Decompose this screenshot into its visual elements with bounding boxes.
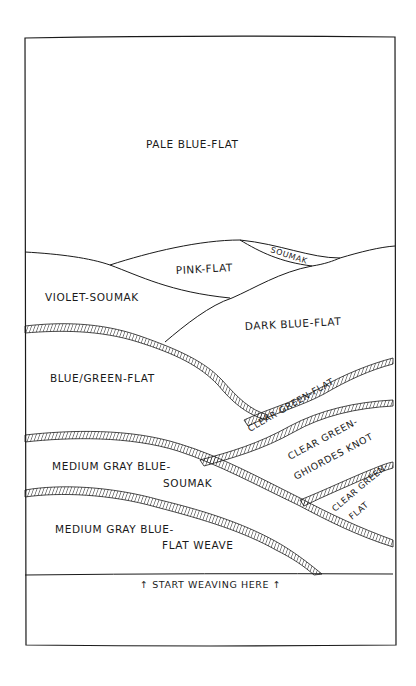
label-blue-green-flat: Blue/Green-Flat — [50, 372, 155, 384]
label-soumak-small: Soumak — [269, 245, 308, 265]
pink-top-boundary — [110, 240, 395, 265]
label-medium-gray-soumak-line1: Medium Gray Blue- — [52, 460, 171, 472]
label-violet-soumak: Violet-Soumak — [45, 291, 139, 303]
label-medium-gray-flat-line1: Medium Gray Blue- — [55, 523, 174, 535]
dark-blue-boundary — [165, 266, 312, 342]
outer-frame — [25, 36, 396, 646]
start-band-divider — [25, 574, 393, 575]
label-clear-green-flat: Clear Green-Flat — [246, 376, 336, 434]
start-weaving-note: ↑ Start Weaving Here ↑ — [140, 579, 281, 590]
weaving-diagram: Pale Blue-Flat Pink-Flat Soumak Violet-S… — [0, 0, 416, 686]
label-pale-blue-flat: Pale Blue-Flat — [146, 138, 239, 150]
label-clear-green-2-line2: Flat — [347, 499, 371, 521]
label-medium-gray-soumak-line2: Soumak — [163, 477, 213, 489]
label-medium-gray-flat-line2: Flat Weave — [162, 539, 234, 551]
label-dark-blue-flat: Dark Blue-Flat — [244, 315, 341, 332]
label-pink-flat: Pink-Flat — [175, 261, 233, 276]
